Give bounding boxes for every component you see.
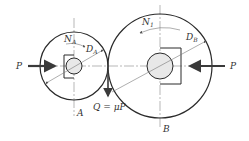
- wheel-a-shaft: [66, 58, 82, 74]
- wheel-b-speed-label: N1: [141, 17, 154, 28]
- wheel-b-label: B: [162, 124, 170, 134]
- wheel-b: N1 DB B: [108, 5, 212, 134]
- forces: P P Q = μP: [15, 61, 237, 112]
- wheel-b-diameter-label: DB: [185, 32, 198, 43]
- friction-force-label: Q = μP: [93, 102, 126, 112]
- friction-wheel-diagram: NA DA A N1 DB B P P Q = μP: [0, 0, 249, 141]
- right-press-force-label: P: [229, 61, 237, 71]
- wheel-a-diameter-label: DA: [85, 44, 98, 55]
- wheel-a-label: A: [76, 108, 84, 118]
- wheel-a-speed-label: NA: [63, 34, 77, 45]
- left-press-force-label: P: [15, 61, 23, 71]
